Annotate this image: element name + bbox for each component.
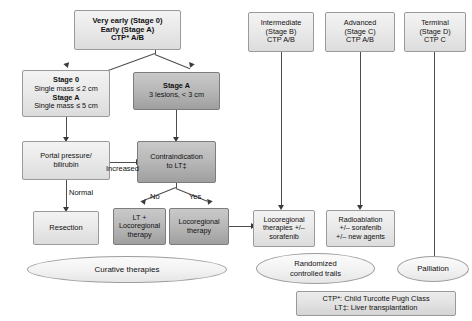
node-very-early-stage[interactable]: Very early (Stage 0) Early (Stage A) CTP…	[74, 10, 181, 50]
arrowhead-stage0	[63, 62, 70, 69]
legend-line2: LT‡: Liver transplantation	[335, 304, 418, 313]
legend-line2-text: : Liver transplantation	[347, 303, 418, 312]
node-contraindication-line2: to LT‡	[166, 162, 186, 171]
node-locoregional-sorafenib[interactable]: Locoregional therapies +/– sorafenib	[253, 210, 315, 247]
outcome-palliation-label: Palliation	[417, 264, 449, 273]
connector-intermediate-column	[281, 52, 282, 208]
legend-line1-text: : Child Turcotte Pugh Class	[340, 294, 430, 303]
node-intermediate-stage[interactable]: Intermediate (Stage B) CTP A/B	[248, 12, 314, 52]
outcome-palliation[interactable]: Palliation	[397, 256, 469, 282]
outcome-trials-line2: controlled trails	[290, 269, 341, 278]
node-stagea-line2: 3 lesions, < 3 cm	[149, 91, 204, 100]
legend-line1-abbr: CTP*	[322, 294, 340, 303]
connector-advanced-column	[360, 52, 361, 208]
node-stage0-criteria[interactable]: Stage 0 Single mass ≤ 2 cm Stage A Singl…	[22, 70, 110, 117]
node-radioablation[interactable]: Radioablation +/– sorafenib +/– new agen…	[326, 210, 395, 247]
bclc-flowchart-canvas: Increased Normal No Yes Very early (Stag…	[0, 0, 472, 321]
node-lt-locoregional-line3: therapy	[128, 231, 152, 239]
connector-portal-to-contraindication	[110, 162, 138, 163]
node-stage0-line4: Single mass ≤ 5 cm	[34, 102, 98, 111]
legend-line2-abbr: LT‡	[335, 303, 347, 312]
legend-abbreviations: CTP*: Child Turcotte Pugh Class LT‡: Liv…	[296, 291, 456, 316]
connector-terminal-column	[434, 52, 435, 261]
node-advanced-line3: CTP A/B	[346, 36, 374, 45]
node-locoregional-therapy[interactable]: Locoregional therapy	[169, 208, 229, 245]
edge-label-no: No	[150, 192, 160, 201]
node-contraindication-lt[interactable]: Contraindication to LT‡	[137, 141, 216, 183]
node-locoregional-sorafenib-line3: sorafenib	[269, 233, 299, 241]
outcome-curative-label: Curative therapies	[95, 265, 160, 275]
node-stagea-criteria[interactable]: Stage A 3 lesions, < 3 cm	[133, 72, 220, 110]
node-portal-line2: bilirubin	[53, 161, 78, 170]
outcome-trials-line1: Randomized	[294, 259, 337, 268]
node-terminal-stage[interactable]: Terminal (Stage D) CTP C	[404, 12, 466, 52]
node-intermediate-line3: CTP A/B	[267, 36, 295, 45]
node-very-early-line3: CTP* A/B	[111, 34, 144, 43]
outcome-randomized-trials[interactable]: Randomized controlled trails	[256, 253, 375, 284]
connector-contraindication-no	[144, 187, 176, 201]
node-advanced-stage[interactable]: Advanced (Stage C) CTP A/B	[325, 12, 395, 52]
connector-portal-to-resection	[66, 180, 67, 210]
node-resection[interactable]: Resection	[33, 211, 99, 245]
edge-label-increased: Increased	[106, 164, 139, 173]
edge-label-yes: Yes	[189, 192, 201, 201]
edge-label-normal: Normal	[69, 188, 93, 197]
node-terminal-line3: CTP C	[424, 36, 446, 45]
node-resection-line1: Resection	[49, 224, 82, 233]
node-lt-locoregional-therapy[interactable]: LT + Locoregional therapy	[113, 208, 166, 245]
connector-stagea-to-contraindication	[176, 110, 177, 140]
arrowhead-locoregional	[205, 199, 212, 206]
outcome-curative-therapies[interactable]: Curative therapies	[27, 256, 227, 283]
connector-locoregional-to-sorafenib	[229, 226, 253, 227]
node-radioablation-line3: +/– new agents	[336, 233, 385, 241]
arrowhead-lt-locoregional	[140, 199, 147, 206]
connector-very-early-to-stagea	[155, 54, 191, 69]
node-portal-pressure[interactable]: Portal pressure/ bilirubin	[22, 141, 110, 180]
node-locoregional-line2: therapy	[187, 227, 211, 235]
